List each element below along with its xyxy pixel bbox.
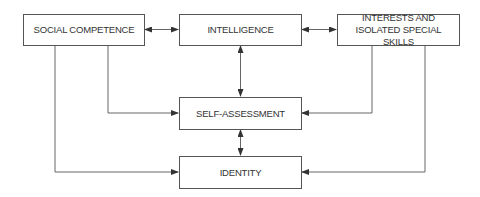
node-label: INTELLIGENCE xyxy=(207,24,273,36)
edge-social-identity xyxy=(55,45,178,172)
edge-interests-identity xyxy=(302,45,425,172)
edge-interests-self-assessment xyxy=(302,45,372,113)
node-interests-special-skills: INTERESTS AND ISOLATED SPECIAL SKILLS xyxy=(337,14,460,46)
edge-social-self-assessment xyxy=(108,45,178,113)
node-intelligence: INTELLIGENCE xyxy=(179,14,302,46)
node-label: INTERESTS AND ISOLATED SPECIAL SKILLS xyxy=(342,12,455,48)
node-identity: IDENTITY xyxy=(179,156,302,189)
node-social-competence: SOCIAL COMPETENCE xyxy=(23,14,145,46)
node-label: IDENTITY xyxy=(220,167,262,179)
node-label: SOCIAL COMPETENCE xyxy=(34,24,135,36)
node-self-assessment: SELF-ASSESSMENT xyxy=(179,97,302,130)
node-label: SELF-ASSESSMENT xyxy=(196,108,285,120)
